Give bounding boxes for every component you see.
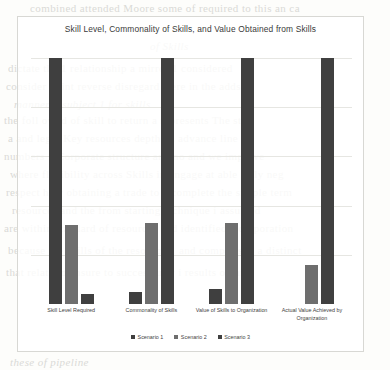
- legend-swatch-icon: [218, 335, 222, 339]
- legend-item[interactable]: Scenario 1: [131, 334, 163, 340]
- bar-groups: [31, 58, 352, 304]
- plot-area: [31, 42, 352, 304]
- bar[interactable]: [129, 292, 142, 304]
- category-label: Commonality of Skills: [111, 306, 191, 323]
- bar[interactable]: [81, 294, 94, 304]
- chart-legend: Scenario 1Scenario 2Scenario 3: [18, 334, 363, 340]
- bar-group: [272, 58, 352, 304]
- bar[interactable]: [49, 58, 62, 304]
- category-label: Value of Skills to Organization: [192, 306, 272, 323]
- bar-group: [192, 58, 272, 304]
- bar[interactable]: [65, 225, 78, 304]
- bar[interactable]: [321, 58, 334, 304]
- legend-item[interactable]: Scenario 2: [174, 334, 206, 340]
- bar[interactable]: [209, 289, 222, 304]
- legend-label: Scenario 3: [224, 334, 250, 340]
- bar[interactable]: [241, 58, 254, 304]
- legend-label: Scenario 1: [138, 334, 164, 340]
- category-axis: Skill Level RequiredCommonality of Skill…: [31, 306, 352, 323]
- bar[interactable]: [161, 58, 174, 304]
- chart-title: Skill Level, Commonality of Skills, and …: [18, 24, 363, 34]
- bar[interactable]: [225, 223, 238, 304]
- category-label: Skill Level Required: [31, 306, 111, 323]
- bleed-text-line: these of pipeline: [10, 356, 390, 368]
- legend-swatch-icon: [131, 335, 135, 339]
- bar[interactable]: [145, 223, 158, 304]
- bar-group: [111, 58, 191, 304]
- bar-group: [31, 58, 111, 304]
- legend-item[interactable]: Scenario 3: [218, 334, 250, 340]
- bar[interactable]: [305, 265, 318, 304]
- legend-swatch-icon: [174, 335, 178, 339]
- category-label: Actual Value Achieved by Organization: [272, 306, 352, 323]
- bleed-text-line: combined attended Moore some of required…: [30, 2, 390, 14]
- chart-container: Skill Level, Commonality of Skills, and …: [17, 16, 364, 352]
- legend-label: Scenario 2: [181, 334, 207, 340]
